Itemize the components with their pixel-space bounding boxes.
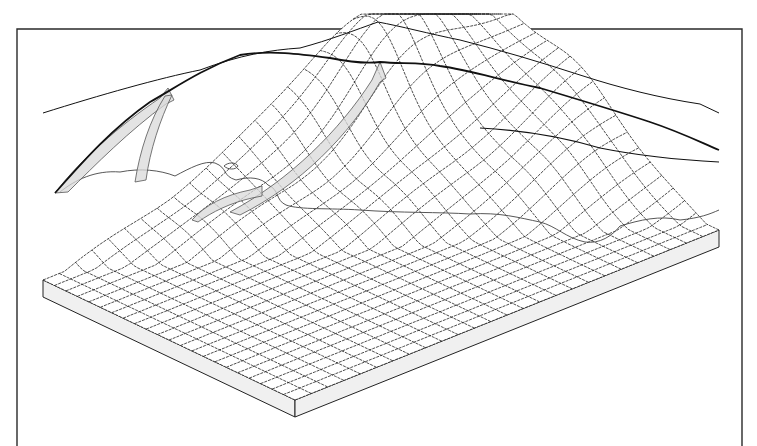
terrain-block-diagram [0, 0, 757, 446]
